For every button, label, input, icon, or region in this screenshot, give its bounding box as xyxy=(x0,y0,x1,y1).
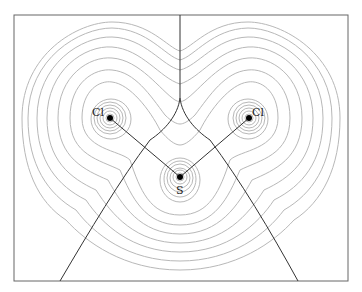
frame xyxy=(14,15,348,281)
label-cl-left: Cl xyxy=(92,106,104,119)
label-cl-right: Cl xyxy=(252,106,264,119)
contour-diagram: Cl Cl S xyxy=(0,0,362,292)
atom-cl-left xyxy=(107,115,113,121)
label-s: S xyxy=(176,184,184,197)
atom-s xyxy=(177,174,183,180)
